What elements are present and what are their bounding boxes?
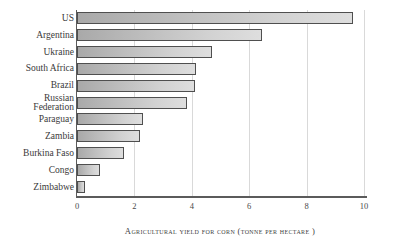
x-tick-label: 2 — [132, 201, 136, 211]
bar — [77, 80, 195, 92]
x-tick-label: 6 — [247, 201, 251, 211]
bar-row — [77, 111, 364, 128]
bar — [77, 12, 353, 24]
bar — [77, 97, 187, 109]
bar-row — [77, 145, 364, 162]
bar — [77, 130, 140, 142]
x-tick-label: 8 — [304, 201, 308, 211]
bar-chart: USArgentinaUkraineSouth AfricaBrazilRuss… — [0, 0, 394, 243]
category-label: Burkina Faso — [0, 149, 74, 159]
category-label: Zambia — [0, 132, 74, 142]
category-label: Congo — [0, 166, 74, 176]
bar-row — [77, 179, 364, 196]
category-label: Zimbabwe — [0, 183, 74, 193]
bar-row — [77, 162, 364, 179]
bar-row — [77, 44, 364, 61]
plot-area — [77, 10, 364, 196]
bar-row — [77, 61, 364, 78]
x-tick-label: 10 — [360, 201, 369, 211]
bar-row — [77, 128, 364, 145]
category-label: Paraguay — [0, 115, 74, 125]
bar-row — [77, 95, 364, 112]
category-axis-labels: USArgentinaUkraineSouth AfricaBrazilRuss… — [0, 10, 74, 196]
category-label: Brazil — [0, 81, 74, 91]
bar — [77, 164, 100, 176]
category-label: US — [0, 14, 74, 24]
category-label: Argentina — [0, 31, 74, 41]
bar — [77, 181, 85, 193]
category-label: Ukraine — [0, 48, 74, 58]
x-tick-label: 4 — [190, 201, 194, 211]
x-axis-line — [77, 196, 367, 198]
bar — [77, 147, 124, 159]
bar — [77, 29, 262, 41]
x-tick-label: 0 — [75, 201, 79, 211]
bar-row — [77, 27, 364, 44]
x-axis-title: Agricultural yield for corn (tonne per h… — [0, 226, 394, 236]
category-label: Russian Federation — [0, 94, 74, 113]
gridline — [364, 10, 365, 196]
bar-row — [77, 78, 364, 95]
bar-row — [77, 10, 364, 27]
bar — [77, 63, 196, 75]
category-label: South Africa — [0, 64, 74, 74]
bar — [77, 46, 212, 58]
bar — [77, 113, 143, 125]
